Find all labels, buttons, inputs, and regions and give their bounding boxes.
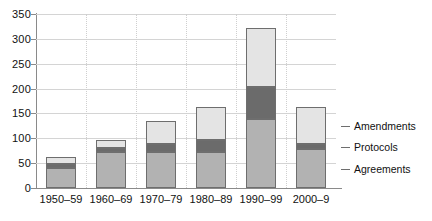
x-axis-tick-label: 1990–99 (236, 193, 286, 205)
category-separator (236, 14, 237, 188)
bar-segment-amendments[interactable] (46, 157, 76, 164)
bar-segment-protocols[interactable] (96, 148, 126, 152)
category-separator (186, 14, 187, 188)
plot-area (36, 14, 336, 188)
bar-segment-agreements[interactable] (96, 152, 126, 188)
legend-connector-line (341, 126, 350, 127)
category-separator (136, 14, 137, 188)
bar-segment-agreements[interactable] (246, 119, 276, 188)
category-separator (286, 14, 287, 188)
y-axis-tick (31, 89, 36, 90)
x-axis-tick-label: 1980–89 (186, 193, 236, 205)
x-axis-tick-label: 1970–79 (136, 193, 186, 205)
bar-segment-amendments[interactable] (196, 107, 226, 139)
bar-segment-agreements[interactable] (46, 168, 76, 188)
bar-segment-protocols[interactable] (146, 144, 176, 152)
x-axis-tick-label: 1950–59 (36, 193, 86, 205)
y-axis-tick (31, 64, 36, 65)
y-axis-tick-label: 50 (18, 157, 31, 169)
legend-item-agreements[interactable]: Agreements (354, 164, 411, 175)
y-axis-labels: 050100150200250300350 (0, 0, 31, 189)
legend-connector-line (341, 147, 350, 148)
x-axis-tick-label: 2000–9 (286, 193, 336, 205)
category-separator (86, 14, 87, 188)
y-axis-tick (31, 138, 36, 139)
bar-group[interactable] (196, 14, 226, 188)
bar-group[interactable] (96, 14, 126, 188)
bar-segment-agreements[interactable] (296, 149, 326, 188)
bar-group[interactable] (246, 14, 276, 188)
bar-segment-amendments[interactable] (296, 107, 326, 144)
y-axis-tick (31, 188, 36, 189)
y-axis-tick-label: 300 (12, 33, 31, 45)
bar-segment-protocols[interactable] (46, 164, 76, 168)
y-axis-tick (31, 163, 36, 164)
legend-item-amendments[interactable]: Amendments (354, 121, 416, 132)
y-axis-tick-label: 200 (12, 83, 31, 95)
y-axis-tick (31, 14, 36, 15)
bar-segment-agreements[interactable] (196, 152, 226, 188)
x-axis-tick-label: 1960–69 (86, 193, 136, 205)
legend-label: Agreements (354, 163, 411, 175)
y-axis-tick-label: 100 (12, 132, 31, 144)
legend-connector-line (341, 169, 350, 170)
stacked-bar-chart: 050100150200250300350 1950–591960–691970… (0, 0, 432, 221)
y-axis-tick-label: 350 (12, 8, 31, 20)
bar-group[interactable] (46, 14, 76, 188)
bar-segment-protocols[interactable] (196, 140, 226, 152)
y-axis-tick (31, 39, 36, 40)
bar-segment-amendments[interactable] (246, 28, 276, 87)
y-axis-tick-label: 150 (12, 107, 31, 119)
bar-segment-agreements[interactable] (146, 152, 176, 188)
y-axis-tick (31, 113, 36, 114)
bar-segment-amendments[interactable] (146, 121, 176, 144)
legend-item-protocols[interactable]: Protocols (354, 142, 398, 153)
x-axis-line (31, 188, 342, 189)
bar-segment-protocols[interactable] (296, 144, 326, 149)
bar-group[interactable] (146, 14, 176, 188)
bar-segment-amendments[interactable] (96, 140, 126, 148)
y-axis-tick-label: 250 (12, 58, 31, 70)
legend-label: Protocols (354, 141, 398, 153)
bar-segment-protocols[interactable] (246, 87, 276, 119)
legend-label: Amendments (354, 120, 416, 132)
bar-group[interactable] (296, 14, 326, 188)
